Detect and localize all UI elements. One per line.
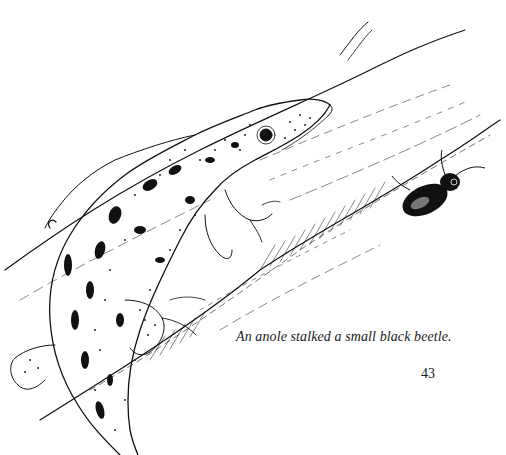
illustration-caption: An anole stalked a small black beetle. — [236, 329, 452, 345]
anole-illustration — [0, 0, 506, 455]
book-page: An anole stalked a small black beetle. 4… — [0, 0, 506, 455]
page-number: 43 — [421, 366, 435, 382]
